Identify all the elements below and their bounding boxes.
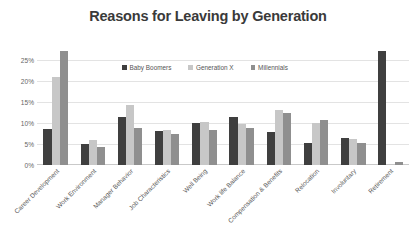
- x-axis-label-slot: Compensation & Benefits: [260, 166, 297, 250]
- x-axis-category-label: Career Development: [13, 168, 60, 215]
- bar-group: [111, 49, 148, 165]
- bar[interactable]: [81, 144, 89, 165]
- bar[interactable]: [275, 110, 283, 165]
- bar[interactable]: [341, 138, 349, 165]
- bar[interactable]: [192, 123, 200, 165]
- bar[interactable]: [304, 143, 312, 165]
- x-axis-label-slot: Relocation: [297, 166, 334, 250]
- x-axis-category-label: Well Being: [183, 168, 209, 194]
- x-axis-label-slot: Work Environment: [74, 166, 111, 250]
- bar-group: [37, 49, 74, 165]
- y-axis-tick-label: 20%: [21, 77, 34, 84]
- bar[interactable]: [171, 134, 179, 165]
- y-axis: 25%20%15%10%5%0%: [10, 49, 34, 165]
- bar-group: [260, 49, 297, 165]
- y-axis-tick-label: 0%: [24, 162, 34, 169]
- chart-container: Reasons for Leaving by Generation Baby B…: [0, 0, 416, 250]
- x-axis-label-slot: Involuntary: [335, 166, 372, 250]
- bar[interactable]: [246, 128, 254, 165]
- x-axis-category-label: Relocation: [294, 168, 320, 194]
- bar[interactable]: [378, 51, 386, 165]
- bar[interactable]: [97, 147, 105, 165]
- x-axis-label-slot: Well Being: [186, 166, 223, 250]
- bar[interactable]: [320, 120, 328, 165]
- x-axis-labels: Career DevelopmentWork EnvironmentManage…: [37, 166, 409, 250]
- bar[interactable]: [200, 122, 208, 165]
- x-axis-category-label: Involuntary: [331, 168, 358, 195]
- bar[interactable]: [43, 129, 51, 165]
- bar[interactable]: [126, 105, 134, 165]
- bar-group: [297, 49, 334, 165]
- y-axis-tick-label: 25%: [21, 56, 34, 63]
- bar[interactable]: [283, 113, 291, 165]
- bar[interactable]: [267, 132, 275, 165]
- bar-group: [335, 49, 372, 165]
- bar[interactable]: [134, 128, 142, 165]
- bar[interactable]: [395, 162, 403, 165]
- bar[interactable]: [357, 143, 365, 165]
- y-axis-tick-label: 10%: [21, 119, 34, 126]
- bar-group: [74, 49, 111, 165]
- y-axis-tick-label: 15%: [21, 98, 34, 105]
- bar[interactable]: [386, 164, 394, 165]
- bar-groups: [37, 49, 409, 165]
- x-axis-label-slot: Career Development: [37, 166, 74, 250]
- bar-group: [149, 49, 186, 165]
- bar-group: [223, 49, 260, 165]
- bar[interactable]: [89, 140, 97, 165]
- bar[interactable]: [209, 130, 217, 165]
- bar[interactable]: [312, 123, 320, 165]
- bar[interactable]: [163, 130, 171, 165]
- y-axis-tick-label: 5%: [24, 140, 34, 147]
- bar-group: [186, 49, 223, 165]
- bar[interactable]: [60, 51, 68, 165]
- x-axis-category-label: Retirement: [368, 168, 395, 195]
- bar[interactable]: [238, 124, 246, 165]
- bar-group: [372, 49, 409, 165]
- bar[interactable]: [155, 131, 163, 165]
- bar[interactable]: [229, 117, 237, 166]
- bar[interactable]: [118, 117, 126, 165]
- x-axis-label-slot: Retirement: [372, 166, 409, 250]
- bar[interactable]: [349, 139, 357, 165]
- chart-title: Reasons for Leaving by Generation: [0, 8, 416, 24]
- bar[interactable]: [52, 77, 60, 165]
- x-axis-label-slot: Job Characteristics: [149, 166, 186, 250]
